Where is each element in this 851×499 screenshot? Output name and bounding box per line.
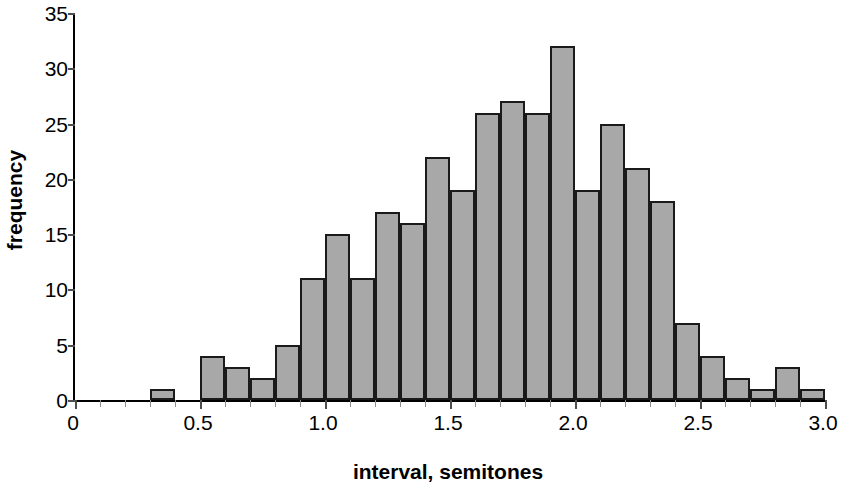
- x-axis-minor-tick: [300, 400, 301, 407]
- bar-series: [75, 13, 825, 400]
- x-axis-minor-tick: [775, 400, 776, 407]
- y-axis-tick-label: 35: [28, 3, 68, 24]
- histogram-bar: [750, 389, 775, 400]
- y-axis-tick-labels: 05101520253035: [26, 0, 68, 499]
- histogram-chart: frequency 05101520253035 00.51.01.52.02.…: [0, 0, 851, 499]
- x-axis-label: interval, semitones: [73, 460, 823, 484]
- histogram-bar: [550, 46, 575, 400]
- x-axis-minor-tick: [425, 400, 426, 407]
- histogram-bar: [400, 223, 425, 400]
- x-axis-minor-tick: [400, 400, 401, 407]
- histogram-bar: [725, 378, 750, 400]
- x-axis-minor-tick: [750, 400, 751, 407]
- x-axis-major-tick: [575, 400, 577, 409]
- histogram-bar: [700, 356, 725, 400]
- x-axis-tick-label: 0: [67, 412, 79, 433]
- x-axis-minor-tick: [125, 400, 126, 407]
- x-axis-major-tick: [450, 400, 452, 409]
- histogram-bar: [800, 389, 825, 400]
- y-axis-tick-label: 0: [28, 390, 68, 411]
- histogram-bar: [450, 190, 475, 400]
- y-axis-tick: [68, 234, 75, 236]
- histogram-bar: [650, 201, 675, 400]
- x-axis-tick-label: 1.0: [308, 412, 337, 433]
- histogram-bar: [500, 101, 525, 400]
- x-axis-tick-label: 1.5: [433, 412, 462, 433]
- histogram-bar: [475, 113, 500, 400]
- histogram-bar: [525, 113, 550, 400]
- y-axis-tick: [68, 289, 75, 291]
- y-axis-tick-label: 15: [28, 224, 68, 245]
- x-axis-major-tick: [325, 400, 327, 409]
- histogram-bar: [300, 278, 325, 400]
- x-axis-minor-tick: [275, 400, 276, 407]
- plot-area: [73, 13, 825, 402]
- x-axis-tick-label: 0.5: [183, 412, 212, 433]
- histogram-bar: [775, 367, 800, 400]
- y-axis-tick: [68, 13, 75, 15]
- y-axis-tick-label: 30: [28, 58, 68, 79]
- histogram-bar: [575, 190, 600, 400]
- x-axis-major-tick: [200, 400, 202, 409]
- histogram-bar: [675, 323, 700, 400]
- histogram-bar: [225, 367, 250, 400]
- x-axis-minor-tick: [525, 400, 526, 407]
- x-axis-major-tick: [75, 400, 77, 409]
- x-axis-minor-tick: [375, 400, 376, 407]
- x-axis-tick-label: 2.0: [558, 412, 587, 433]
- histogram-bar: [375, 212, 400, 400]
- x-axis-minor-tick: [350, 400, 351, 407]
- x-axis-minor-tick: [250, 400, 251, 407]
- x-axis-minor-tick: [475, 400, 476, 407]
- y-axis-tick: [68, 124, 75, 126]
- x-axis-tick-label: 2.5: [683, 412, 712, 433]
- x-axis-minor-tick: [500, 400, 501, 407]
- x-axis-minor-tick: [725, 400, 726, 407]
- x-axis-minor-tick: [600, 400, 601, 407]
- histogram-bar: [325, 234, 350, 400]
- y-axis-tick-label: 10: [28, 279, 68, 300]
- histogram-bar: [625, 168, 650, 400]
- y-axis-tick-label: 20: [28, 168, 68, 189]
- histogram-bar: [250, 378, 275, 400]
- histogram-bar: [425, 157, 450, 400]
- x-axis-minor-tick: [675, 400, 676, 407]
- x-axis-major-tick: [700, 400, 702, 409]
- x-axis-minor-tick: [625, 400, 626, 407]
- histogram-bar: [150, 389, 175, 400]
- x-axis-minor-tick: [175, 400, 176, 407]
- x-axis-major-tick: [825, 400, 827, 409]
- x-axis-minor-tick: [650, 400, 651, 407]
- y-axis-tick: [68, 345, 75, 347]
- x-axis-minor-tick: [225, 400, 226, 407]
- histogram-bar: [600, 124, 625, 400]
- x-axis-minor-tick: [550, 400, 551, 407]
- y-axis-tick: [68, 400, 75, 402]
- x-axis-tick-label: 3.0: [808, 412, 837, 433]
- x-axis-minor-tick: [100, 400, 101, 407]
- histogram-bar: [200, 356, 225, 400]
- x-axis-minor-tick: [150, 400, 151, 407]
- histogram-bar: [275, 345, 300, 400]
- y-axis-tick: [68, 179, 75, 181]
- y-axis-tick-label: 25: [28, 113, 68, 134]
- x-axis-minor-tick: [800, 400, 801, 407]
- y-axis-label-text: frequency: [3, 150, 27, 250]
- y-axis-tick-label: 5: [28, 334, 68, 355]
- histogram-bar: [350, 278, 375, 400]
- y-axis-tick: [68, 68, 75, 70]
- x-axis-tick-labels: 00.51.01.52.02.53.0: [73, 412, 823, 442]
